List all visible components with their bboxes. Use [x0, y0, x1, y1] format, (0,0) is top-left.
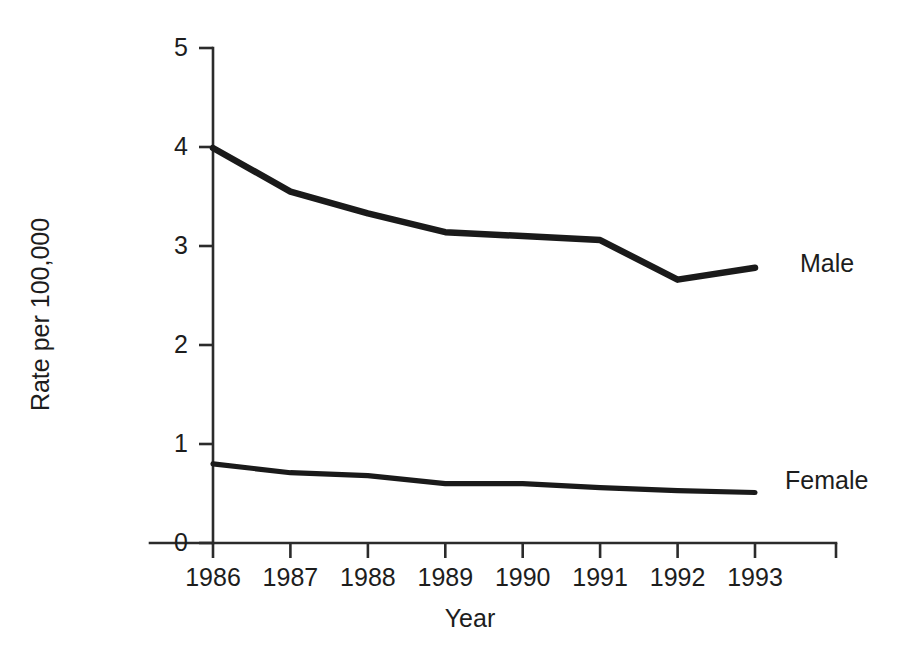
y-tick-label-3: 3 [148, 231, 188, 260]
series-label-male: Male [800, 249, 854, 278]
y-tick-label-0: 0 [148, 528, 188, 557]
y-tick-label-5: 5 [148, 33, 188, 62]
x-tick-label-1987: 1987 [245, 563, 335, 592]
x-axis-title: Year [410, 604, 530, 633]
y-axis-title: Rate per 100,000 [26, 185, 55, 445]
y-tick-label-2: 2 [148, 330, 188, 359]
chart-figure: 5 4 3 2 1 0 1986 1987 1988 1989 1990 199… [0, 0, 904, 665]
x-tick-label-1993: 1993 [710, 563, 800, 592]
series-label-female: Female [785, 466, 868, 495]
y-tick-label-1: 1 [148, 429, 188, 458]
y-tick-label-4: 4 [148, 132, 188, 161]
x-tick-label-1991: 1991 [555, 563, 645, 592]
